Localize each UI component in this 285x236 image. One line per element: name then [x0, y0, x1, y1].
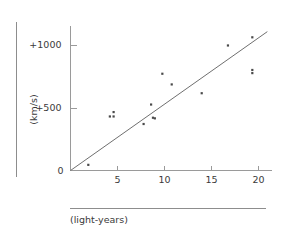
- data-point: [150, 103, 152, 105]
- data-point: [161, 73, 163, 75]
- data-point: [251, 72, 253, 74]
- data-point: [87, 164, 89, 166]
- x-tick-label: 20: [252, 174, 264, 185]
- x-tick-label: 10: [158, 174, 170, 185]
- scatter-plot: 0+500+1000 5101520: [0, 0, 285, 236]
- y-tick-label: +1000: [29, 39, 61, 50]
- x-ticks-group: 5101520: [114, 166, 264, 185]
- data-point: [227, 44, 229, 46]
- data-point: [251, 69, 253, 71]
- figure-container: (km/s) (light-years) 0+500+1000 5101520: [0, 0, 285, 236]
- trend-line: [71, 32, 268, 171]
- y-tick-label: +500: [35, 102, 61, 113]
- data-point: [109, 115, 111, 117]
- data-points-group: [87, 36, 253, 166]
- x-tick-label: 5: [114, 174, 120, 185]
- data-point: [143, 123, 145, 125]
- data-point: [251, 36, 253, 38]
- data-point: [113, 111, 115, 113]
- y-ticks-group: 0+500+1000: [29, 39, 76, 176]
- x-tick-label: 15: [205, 174, 217, 185]
- data-point: [154, 117, 156, 119]
- data-point: [201, 92, 203, 94]
- y-tick-label: 0: [57, 165, 63, 176]
- data-point: [171, 83, 173, 85]
- data-point: [113, 115, 115, 117]
- data-point: [152, 117, 154, 119]
- trend-line-group: [71, 32, 268, 171]
